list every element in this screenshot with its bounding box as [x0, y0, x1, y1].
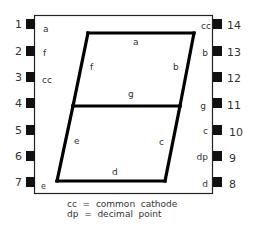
pin-number-6: 6	[15, 150, 22, 163]
pin-label-7: e	[41, 182, 46, 191]
pin-3	[26, 72, 35, 82]
segment-label-g: g	[128, 89, 134, 99]
pin-9	[213, 151, 222, 161]
legend-cc: cc = common cathode	[67, 199, 178, 209]
pin-12	[213, 72, 222, 82]
pin-number-10: 10	[229, 126, 243, 139]
pin-4	[26, 98, 35, 108]
pin-number-14: 14	[227, 19, 241, 32]
pin-5	[26, 125, 35, 135]
pin-label-14: cc	[201, 21, 211, 31]
pin-2	[26, 46, 35, 56]
pin-number-9: 9	[229, 152, 236, 165]
pin-1	[26, 19, 35, 29]
pin-label-8: d	[202, 179, 208, 189]
pin-number-8: 8	[229, 178, 236, 191]
pin-label-1: a	[43, 24, 49, 34]
pin-14	[213, 19, 222, 29]
legend-dp: dp = decimal point	[67, 209, 162, 219]
pin-number-4: 4	[15, 97, 22, 110]
pin-7	[26, 177, 35, 187]
pin-label-3: cc	[42, 75, 52, 85]
pin-number-7: 7	[15, 176, 22, 189]
pin-number-12: 12	[227, 72, 241, 85]
seven-segment-pinout-diagram: 1 2 3 4 5 6 7 a f cc e 14 13 12 11 10 9 …	[0, 0, 254, 232]
pin-label-13: b	[202, 48, 208, 58]
pin-label-10: c	[203, 126, 208, 136]
pin-label-11: g	[200, 101, 206, 111]
pin-number-5: 5	[15, 124, 22, 137]
pin-number-13: 13	[227, 46, 241, 59]
right-pins	[213, 19, 222, 187]
pin-11	[213, 98, 222, 108]
segment-label-d: d	[112, 167, 118, 177]
left-pins	[26, 19, 35, 187]
pin-13	[213, 46, 222, 56]
pin-number-11: 11	[227, 99, 241, 112]
pin-label-9: dp	[197, 152, 209, 162]
segment-label-c: c	[159, 137, 164, 147]
segment-label-e: e	[74, 136, 80, 146]
pin-number-2: 2	[15, 45, 22, 58]
segment-label-b: b	[173, 62, 179, 72]
pin-8	[213, 177, 222, 187]
pin-number-3: 3	[15, 71, 22, 84]
segment-label-a: a	[133, 37, 139, 47]
pin-6	[26, 151, 35, 161]
pin-number-1: 1	[15, 18, 22, 31]
pin-10	[213, 125, 222, 135]
